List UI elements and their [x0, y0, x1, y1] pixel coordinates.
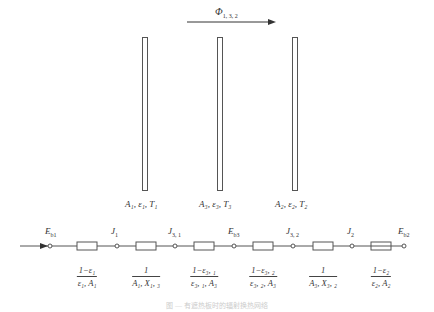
resistor-4	[253, 242, 273, 250]
node-j31	[173, 244, 177, 248]
plate-3-label: A₃, ε₃, T₃	[199, 199, 231, 209]
plate-3	[217, 37, 223, 191]
node-j32	[291, 244, 295, 248]
resistance-3: 1−ε₃, ₁ε₃, ₁, A₃	[190, 265, 218, 288]
figure-caption: 图 — 有遮热板时的辐射换热网络	[0, 300, 434, 310]
resistance-4: 1−ε₃, ₂ε₃, ₂, A₃	[249, 265, 277, 288]
node-label-j1: J1	[111, 226, 118, 238]
input-arrow-icon	[40, 243, 48, 249]
node-label-eb1: Eb1	[45, 226, 57, 238]
resistor-2	[136, 242, 156, 250]
node-label-eb3: Eb3	[228, 226, 240, 238]
resistance-5: 1A₃, X₃, ₂	[309, 265, 337, 288]
node-label-j2: J2	[347, 226, 354, 238]
node-eb1	[48, 244, 52, 248]
plate-2-label: A₂, ε₂, T₂	[275, 199, 307, 209]
resistance-2: 1A₁, X₁, ₃	[132, 265, 160, 288]
plate-1	[142, 37, 148, 191]
node-label-j32: J3, 2	[286, 226, 299, 238]
resistance-1: 1−ε₁ε₁, A₁	[77, 265, 97, 288]
resistance-6: 1−ε₂ε₂, A₂	[371, 265, 391, 288]
node-eb2	[402, 244, 406, 248]
plate-2	[292, 37, 298, 191]
flux-arrowhead-icon	[268, 19, 276, 25]
flux-label: Φ1, 3, 2	[215, 6, 238, 19]
resistor-3	[194, 242, 214, 250]
plate-1-label: A₁, ε₁, T₁	[125, 199, 157, 209]
node-label-j31: J3, 1	[168, 226, 181, 238]
resistor-5	[313, 242, 333, 250]
node-label-eb2: Eb2	[398, 226, 410, 238]
node-j1	[115, 244, 119, 248]
resistor-1	[77, 242, 97, 250]
node-eb3	[232, 244, 236, 248]
node-j2	[350, 244, 354, 248]
